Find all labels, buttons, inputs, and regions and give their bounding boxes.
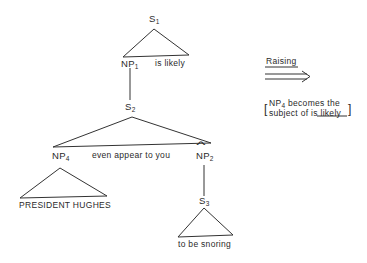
np4-label: NP4 [52, 150, 70, 162]
s2-text: S [125, 101, 132, 112]
s2-label: S2 [125, 101, 136, 113]
np1-label: NP1 [121, 58, 139, 70]
np2-sub: 2 [210, 155, 214, 162]
s3-sub: 3 [206, 200, 210, 207]
arrow-head [302, 71, 310, 82]
note-bracket-open: [ [264, 96, 268, 122]
note-line-2: subject of is likely [269, 108, 341, 118]
s2-triangle [53, 117, 211, 147]
s1-triangle [123, 29, 189, 57]
s3-label: S3 [199, 195, 210, 207]
note-is-likely-text: is likely [311, 108, 341, 118]
raising-label: Raising [266, 56, 296, 66]
s3-text: S [199, 195, 206, 206]
s1-label: S1 [149, 13, 160, 25]
np4-sub: 4 [66, 155, 70, 162]
np1-sub: 1 [135, 63, 139, 70]
president-hughes-text: PRESIDENT HUGHES [19, 200, 111, 210]
s2-sub: 2 [132, 106, 136, 113]
note-np-text: NP [269, 98, 281, 108]
np2-hat: ^ [196, 140, 206, 150]
even-appear-text: even appear to you [92, 150, 170, 160]
np4-triangle [20, 168, 107, 198]
s3-triangle [178, 208, 233, 237]
np4-text: NP [52, 150, 66, 161]
np1-text: NP [121, 58, 135, 69]
s1-text: S [149, 13, 156, 24]
note-subject-text: subject of [269, 108, 311, 118]
to-be-snoring-text: to be snoring [178, 239, 231, 249]
note-bracket-close: ] [348, 96, 352, 122]
np2-label: NP2 [196, 150, 214, 162]
np2-text: NP [196, 150, 210, 161]
tree-lines [0, 0, 367, 263]
note-becomes-text: becomes the [285, 98, 340, 108]
s1-sub: 1 [156, 18, 160, 25]
is-likely-text: is likely [155, 58, 185, 68]
